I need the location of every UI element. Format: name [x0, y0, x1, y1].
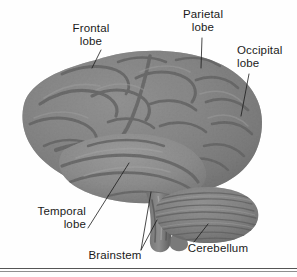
- label-temporal-lobe: Temporal lobe: [22, 205, 86, 230]
- footer-rule-secondary: [0, 271, 297, 272]
- label-brainstem: Brainstem: [86, 249, 144, 262]
- brain-anatomy-figure: Frontal lobe Parietal lobe Occipital lob…: [0, 0, 297, 277]
- label-frontal-lobe: Frontal lobe: [60, 22, 122, 47]
- label-cerebellum: Cerebellum: [187, 242, 249, 255]
- label-parietal-lobe: Parietal lobe: [173, 8, 233, 33]
- brain-illustration: [0, 0, 297, 277]
- footer-rule-primary: [0, 268, 297, 269]
- label-occipital-lobe: Occipital lobe: [237, 44, 295, 69]
